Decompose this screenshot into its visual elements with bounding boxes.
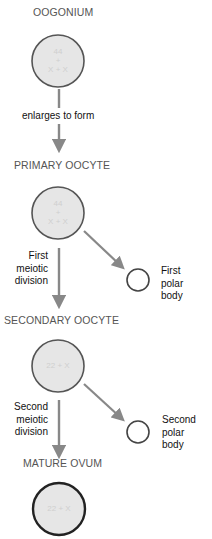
arrow-first-polar-body xyxy=(84,231,120,265)
oogonium-chromosomes: 44 + X + X xyxy=(38,47,78,74)
chromosome-line: 44 xyxy=(38,199,78,208)
stage-title-primary-oocyte: PRIMARY OOCYTE xyxy=(14,159,110,171)
chromosome-line: X + X xyxy=(38,217,78,226)
label-first-meiotic-division: First meiotic division xyxy=(8,250,48,288)
label-line: First xyxy=(161,265,183,278)
label-line: polar xyxy=(162,427,196,440)
label-line: polar xyxy=(161,278,183,291)
stage-title-secondary-oocyte: SECONDARY OOCYTE xyxy=(4,314,119,326)
label-line: body xyxy=(161,290,183,303)
label-line: division xyxy=(4,426,48,439)
label-line: division xyxy=(8,275,48,288)
first-polar-body-cell xyxy=(127,269,149,291)
label-line: Second xyxy=(4,401,48,414)
label-line: meiotic xyxy=(4,414,48,427)
stage-title-oogonium: OOGONIUM xyxy=(33,6,93,18)
mature-ovum-chromosomes: 22 + X xyxy=(39,504,79,513)
label-line: meiotic xyxy=(8,263,48,276)
secondary-oocyte-chromosomes: 22 + X xyxy=(38,361,78,370)
label-line: body xyxy=(162,439,196,452)
primary-oocyte-chromosomes: 44 + X + X xyxy=(38,199,78,226)
arrow-second-polar-body xyxy=(84,384,120,417)
label-line: Second xyxy=(162,414,196,427)
chromosome-line: + xyxy=(38,208,78,217)
chromosome-line: 44 xyxy=(38,47,78,56)
label-second-meiotic-division: Second meiotic division xyxy=(4,401,48,439)
chromosome-line: 22 + X xyxy=(39,504,79,513)
chromosome-line: + xyxy=(38,56,78,65)
label-line: First xyxy=(8,250,48,263)
chromosome-line: 22 + X xyxy=(38,361,78,370)
stage-title-mature-ovum: MATURE OVUM xyxy=(23,457,102,469)
label-second-polar-body: Second polar body xyxy=(162,414,196,452)
label-enlarges-to-form: enlarges to form xyxy=(21,110,95,123)
chromosome-line: X + X xyxy=(38,65,78,74)
second-polar-body-cell xyxy=(127,421,149,443)
label-first-polar-body: First polar body xyxy=(161,265,183,303)
